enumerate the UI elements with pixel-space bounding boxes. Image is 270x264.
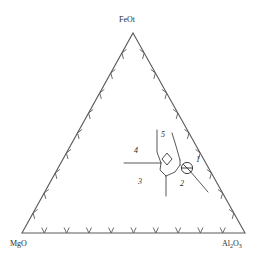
field-label-5: 5 bbox=[161, 131, 165, 139]
al2o3-sub-3: 3 bbox=[239, 243, 242, 249]
right-axis-ticks bbox=[140, 49, 234, 219]
al2o3-al: Al bbox=[222, 239, 230, 248]
al2o3-sub-2: 2 bbox=[230, 243, 233, 249]
ternary-plot-svg bbox=[0, 0, 270, 264]
field-label-2: 2 bbox=[180, 180, 184, 188]
apex-label-mgo: MgO bbox=[10, 240, 27, 248]
bottom-axis-ticks bbox=[42, 228, 226, 234]
left-axis-ticks bbox=[33, 49, 126, 219]
apex-label-al2o3: Al2O3 bbox=[222, 240, 242, 248]
field-label-1: 1 bbox=[196, 156, 200, 164]
al2o3-o: O bbox=[233, 239, 239, 248]
diamond-marker bbox=[162, 153, 172, 165]
apex-label-feot: FeOt bbox=[119, 16, 135, 24]
boundary-1-2 bbox=[190, 171, 208, 192]
field-label-4: 4 bbox=[134, 147, 138, 155]
circled-cross-marker bbox=[181, 162, 192, 173]
boundary-2-node bbox=[166, 165, 180, 176]
boundary-3-node bbox=[160, 163, 166, 176]
triangle-outline bbox=[22, 33, 245, 233]
ternary-diagram-figure: FeOt MgO Al2O3 1 2 3 4 5 bbox=[0, 0, 270, 264]
boundary-5-1 bbox=[172, 133, 180, 160]
field-label-3: 3 bbox=[138, 178, 142, 186]
